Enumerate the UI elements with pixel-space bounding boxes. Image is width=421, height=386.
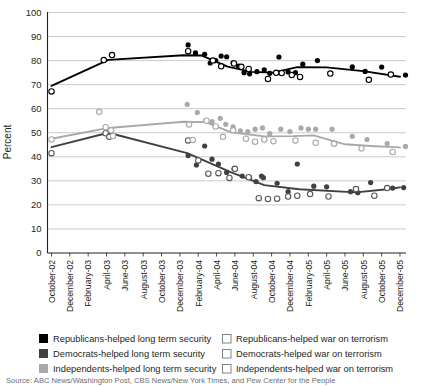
data-point [224, 54, 229, 59]
data-point [185, 102, 190, 107]
data-point [324, 184, 329, 189]
data-point [110, 133, 115, 138]
data-point [350, 64, 355, 69]
data-point [246, 175, 251, 180]
data-point [186, 42, 191, 47]
data-point [307, 191, 312, 196]
data-point [390, 149, 395, 154]
data-point [204, 118, 209, 123]
y-tick-label: 50 [31, 127, 42, 138]
data-point [218, 116, 223, 121]
legend-item[interactable]: Democrats-helped long term security [39, 349, 205, 359]
x-tick-label: August-05 [359, 260, 369, 299]
data-point [253, 179, 258, 184]
data-point [196, 158, 201, 163]
legend-item[interactable]: Independents-helped long term security [39, 364, 217, 374]
x-tick-label: October-05 [377, 260, 387, 303]
data-point [313, 127, 318, 132]
y-tick-label: 20 [31, 199, 42, 210]
data-point [186, 153, 191, 158]
data-point [185, 49, 190, 54]
data-point [218, 64, 223, 69]
data-point [295, 161, 300, 166]
x-tick-label: October-02 [47, 260, 57, 303]
data-point [348, 189, 353, 194]
data-point [311, 184, 316, 189]
data-point [403, 144, 408, 149]
data-point [209, 157, 214, 162]
series-0 [52, 42, 409, 85]
data-point [49, 150, 54, 155]
x-tick-label: February-04 [194, 260, 204, 307]
data-point [298, 125, 303, 130]
y-axis-title: Percent [2, 125, 13, 160]
data-point [241, 70, 246, 75]
data-point [238, 128, 243, 133]
data-point [96, 109, 101, 114]
data-point [209, 119, 214, 124]
data-point [202, 143, 207, 148]
data-point [328, 71, 333, 76]
data-point [275, 181, 280, 186]
data-point [326, 194, 331, 199]
data-point [262, 67, 267, 72]
y-tick-label: 30 [31, 175, 42, 186]
legend-item[interactable]: Independents-helped war on terrorism [223, 364, 394, 374]
x-tick-label: October-04 [267, 260, 277, 303]
y-axis-tick-labels: 0102030405060708090100 [26, 7, 42, 259]
x-tick-label: February-03 [83, 260, 93, 307]
legend-item[interactable]: Republicans-helped war on terrorism [223, 334, 389, 344]
legend-label: Democrats-helped war on terrorism [236, 349, 382, 359]
data-point [252, 139, 257, 144]
x-tick-label: August-03 [139, 260, 149, 299]
data-point [331, 141, 336, 146]
data-point [385, 141, 390, 146]
data-point [401, 185, 406, 190]
data-point [231, 61, 236, 66]
x-tick-label: December-03 [175, 260, 185, 312]
chart-legend: Republicans-helped long term securityDem… [39, 334, 393, 374]
data-point [109, 52, 114, 57]
line-chart: 0102030405060708090100 Percent October-0… [0, 0, 421, 386]
x-axis-tick-labels: October-02December-02February-03April-03… [47, 260, 406, 312]
data-point [297, 74, 302, 79]
x-tick-label: December-02 [65, 260, 75, 312]
data-point [193, 50, 198, 55]
data-point [293, 138, 298, 143]
data-point [372, 193, 377, 198]
data-point [49, 137, 54, 142]
data-point [262, 137, 267, 142]
data-point [101, 57, 106, 62]
data-point [364, 137, 369, 142]
data-point [246, 66, 251, 71]
data-point [243, 136, 248, 141]
data-point [271, 138, 276, 143]
legend-swatch [223, 365, 232, 374]
data-point [216, 170, 221, 175]
legend-swatch [223, 335, 232, 344]
data-point [103, 125, 108, 130]
data-point [300, 62, 305, 67]
legend-swatch [223, 350, 232, 359]
data-point [306, 127, 311, 132]
legend-label: Independents-helped war on terrorism [236, 364, 393, 374]
data-point [223, 122, 228, 127]
chart-container: 0102030405060708090100 Percent October-0… [0, 0, 421, 386]
legend-label: Republicans-helped long term security [53, 334, 211, 344]
legend-label: Democrats-helped long term security [53, 349, 205, 359]
data-point [213, 124, 218, 129]
data-point [239, 64, 244, 69]
data-point [289, 72, 294, 77]
data-point [379, 64, 384, 69]
data-point [353, 186, 358, 191]
data-point [390, 185, 395, 190]
data-point [388, 72, 393, 77]
legend-item[interactable]: Democrats-helped war on terrorism [223, 349, 382, 359]
legend-swatch [39, 349, 48, 358]
series-5 [49, 109, 396, 155]
data-point [384, 185, 389, 190]
legend-item[interactable]: Republicans-helped long term security [39, 334, 211, 344]
x-tick-label: June-04 [230, 260, 240, 291]
data-point [232, 166, 237, 171]
data-point [287, 129, 292, 134]
